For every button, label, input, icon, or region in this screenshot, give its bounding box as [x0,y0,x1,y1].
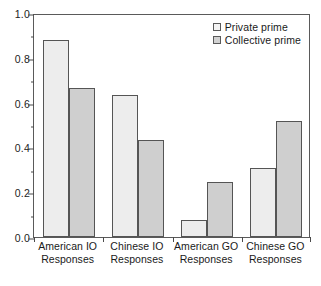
bar [112,95,138,237]
x-axis-category-label-line: Responses [241,253,310,266]
bar-group [173,15,242,237]
legend-label: Private prime [225,22,288,33]
bar [43,40,69,237]
legend-item: Private prime [213,22,301,33]
x-axis-category-label: Chinese IOResponses [102,240,171,265]
chart-legend: Private primeCollective prime [213,22,301,45]
x-axis-category-label-line: Chinese GO [241,240,310,253]
x-axis-category-label-line: Responses [102,253,171,266]
bar-group [242,15,311,237]
x-axis-category-label-line: Responses [172,253,241,266]
x-axis-category-label: American IOResponses [33,240,102,265]
legend-swatch-icon [213,23,221,31]
x-axis-category-label-line: Responses [33,253,102,266]
bar-chart-figure: 0.00.20.40.60.81.0 Private primeCollecti… [0,0,321,286]
y-axis-tick-labels: 0.00.20.40.60.81.0 [0,14,30,238]
x-axis-category-label: American GOResponses [172,240,241,265]
bar [276,121,302,237]
bar [207,182,233,237]
plot-frame: Private primeCollective prime [33,14,310,238]
bar-group [103,15,172,237]
legend-item: Collective prime [213,35,301,46]
x-axis-category-label-line: American IO [33,240,102,253]
x-axis-category-label-line: American GO [172,240,241,253]
x-axis-category-labels: American IOResponsesChinese IOResponsesA… [33,240,310,280]
bar [138,140,164,237]
bar [69,88,95,237]
bar [181,220,207,237]
bar-group [34,15,103,237]
plot-area [34,15,309,237]
legend-swatch-icon [213,36,221,44]
legend-label: Collective prime [225,35,301,46]
x-axis-category-label-line: Chinese IO [102,240,171,253]
x-axis-category-label: Chinese GOResponses [241,240,310,265]
bar [250,168,276,237]
x-axis-tick [310,237,311,242]
